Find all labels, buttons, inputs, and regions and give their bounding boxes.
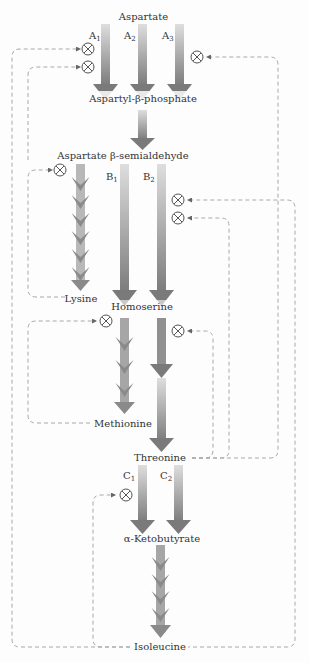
inhibit-icon — [120, 489, 132, 501]
inhibit-icon — [82, 61, 94, 73]
enzyme-a3: A3 — [161, 30, 174, 43]
label-lysine: Lysine — [65, 293, 98, 304]
arrow-b1 — [120, 164, 129, 294]
enzyme-c2: C2 — [160, 470, 172, 483]
enzyme-a2: A2 — [123, 30, 136, 43]
arrow-a3 — [175, 24, 184, 86]
inhibit-icon — [172, 212, 184, 224]
inhibit-icon — [191, 51, 203, 63]
label-aspartate: Aspartate — [118, 11, 168, 22]
inhibit-icon — [172, 325, 184, 337]
enzyme-b2: B2 — [143, 171, 155, 184]
feedback-lysine-branch — [28, 170, 65, 297]
feedback-isoleucine-right — [172, 200, 295, 647]
arrow-c2 — [174, 465, 183, 523]
label-methionine: Methionine — [94, 418, 152, 429]
feedback-lysine-a1 — [28, 67, 80, 160]
label-semialdehyde: Aspartate β-semialdehyde — [56, 150, 188, 161]
inhibit-icon — [100, 315, 112, 327]
arrow-c1 — [138, 465, 147, 523]
feedback-threonine-b2 — [188, 218, 229, 458]
feedback-threonine-a3 — [192, 57, 278, 458]
inhibit-icon — [172, 194, 184, 206]
feedback-threonine-branch — [188, 331, 213, 458]
aspartate-pathway-diagram: Aspartate Aspartyl-β-phosphate Aspartate… — [0, 0, 309, 663]
feedback-isoleucine-outer-left — [12, 49, 130, 647]
enzyme-c1: C1 — [123, 470, 135, 483]
arrow-threonine-step2 — [157, 378, 166, 442]
enzyme-a1: A1 — [88, 30, 101, 43]
feedback-isoleucine-c1 — [93, 495, 130, 647]
feedback-methionine-branch — [28, 321, 96, 423]
label-ketobutyrate: α-Ketobutyrate — [124, 533, 201, 544]
arrow-a1 — [101, 24, 110, 86]
label-threonine: Threonine — [134, 452, 186, 463]
label-isoleucine: Isoleucine — [134, 641, 186, 652]
pathway-canvas: Aspartate Aspartyl-β-phosphate Aspartate… — [0, 0, 309, 663]
label-aspartyl-phosphate: Aspartyl-β-phosphate — [88, 93, 197, 104]
arrow-b2 — [157, 164, 166, 294]
label-homoserine: Homoserine — [111, 301, 173, 312]
arrow-threonine-step1 — [157, 318, 166, 370]
arrow-to-semialdehyde — [138, 110, 147, 140]
enzyme-b1: B1 — [106, 171, 118, 184]
inhibit-icon — [54, 164, 66, 176]
arrow-a2 — [138, 24, 147, 86]
inhibit-icon — [82, 43, 94, 55]
